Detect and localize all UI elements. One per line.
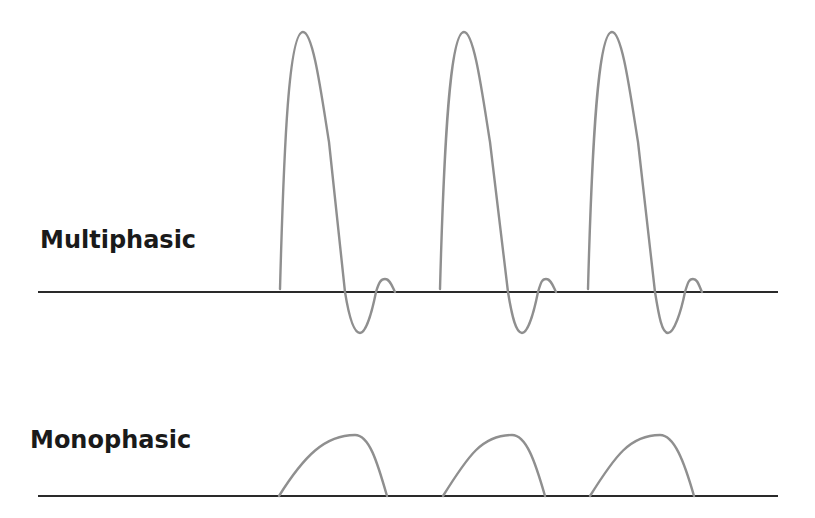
multiphasic-wave-2	[440, 32, 556, 333]
multiphasic-waveform-group	[38, 32, 778, 333]
multiphasic-wave-3	[588, 32, 702, 333]
monophasic-wave-1	[279, 435, 387, 496]
monophasic-wave-2	[443, 435, 545, 496]
multiphasic-wave-1	[280, 32, 395, 333]
monophasic-wave-3	[590, 435, 694, 496]
waveform-diagram	[0, 0, 815, 518]
monophasic-waveform-group	[38, 435, 778, 496]
